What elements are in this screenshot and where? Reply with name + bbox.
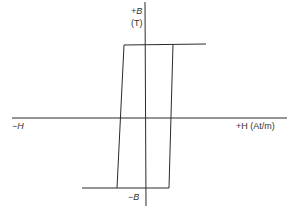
- saturation-top-line: [124, 44, 206, 45]
- h-positive-label: +H (At/m): [236, 121, 275, 131]
- hysteresis-diagram: +B (T) −B −H +H (At/m): [0, 0, 295, 213]
- b-axis: [145, 2, 146, 206]
- b-positive-label: +B: [131, 6, 142, 16]
- h-negative-label: −H: [12, 121, 24, 131]
- loop-right-edge: [169, 44, 173, 188]
- b-unit-label: (T): [131, 18, 143, 28]
- loop-left-edge: [117, 45, 124, 188]
- b-negative-label: −B: [128, 192, 139, 202]
